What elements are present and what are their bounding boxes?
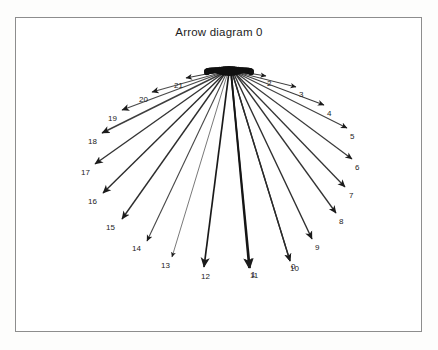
arrow-label-7: 7 [349,192,353,200]
arrow-label-15: 15 [106,224,115,232]
arrow-label-6: 6 [355,164,359,172]
arrow-label-16: 16 [88,198,97,206]
arrow-label-3: 3 [299,91,303,99]
arrow-label-8: 8 [339,218,343,226]
arrow-label-12: 12 [201,273,210,281]
arrow-label-4: 4 [327,110,331,118]
arrow-label-18: 18 [88,138,97,146]
arrow-label-14: 14 [132,245,141,253]
arrow-label-13: 13 [161,262,170,270]
screenshot-root: Arrow diagram 0 012345678910111213141516… [0,0,438,350]
arrow-label-21: 21 [174,82,183,90]
arrow-label-10: 10 [290,265,299,273]
arrow-label-2: 2 [267,80,271,88]
arrow-label-20: 20 [139,96,148,104]
arrow-label-17: 17 [81,169,90,177]
arrow-label-11: 11 [250,272,258,280]
chart-title: Arrow diagram 0 [0,26,438,38]
arrow-label-9: 9 [315,244,319,252]
arrow-label-5: 5 [350,133,354,141]
plot-frame [15,17,422,332]
arrow-label-19: 19 [108,115,117,123]
